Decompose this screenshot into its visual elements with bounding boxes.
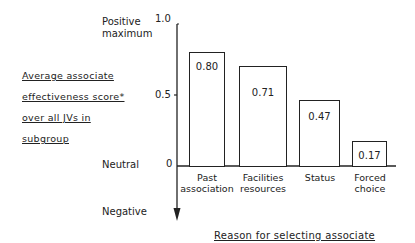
x-axis-title: Reason for selecting associate xyxy=(214,230,375,241)
category-forced-choice: Forced choice xyxy=(346,172,394,194)
bar-value-label: 0.47 xyxy=(300,111,339,122)
bar-forced-choice: 0.17 xyxy=(352,141,387,167)
bar-value-label: 0.17 xyxy=(353,150,386,161)
down-arrow-icon xyxy=(174,208,181,221)
bar-value-label: 0.71 xyxy=(240,87,286,98)
bar-value-label: 0.80 xyxy=(190,61,224,72)
bar-past-association: 0.80 xyxy=(189,52,225,167)
category-status: Status xyxy=(296,172,344,183)
category-facilities-resources: Facilities resources xyxy=(234,172,292,194)
category-past-association: Past association xyxy=(180,172,234,194)
bar-facilities-resources: 0.71 xyxy=(239,66,287,167)
bar-status: 0.47 xyxy=(299,100,340,167)
